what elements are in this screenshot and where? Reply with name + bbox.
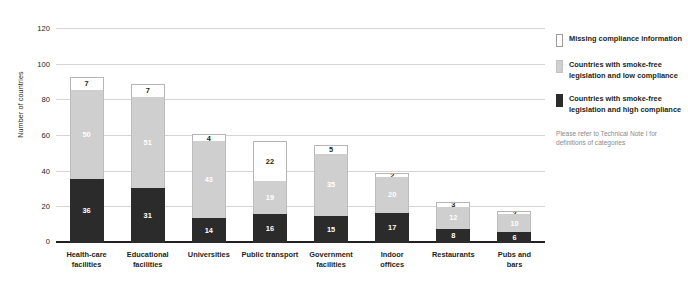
y-axis-tick-label: 120: [37, 24, 50, 33]
legend-item[interactable]: Countries with smoke-free legislation an…: [556, 60, 684, 81]
bar-segment-low-compliance: 43: [192, 141, 226, 218]
bar-stack[interactable]: 2106: [497, 211, 531, 243]
y-axis-tick-label: 60: [42, 131, 50, 140]
bar-segment-low-compliance: 10: [497, 214, 531, 232]
x-axis-label-line: offices: [353, 260, 431, 270]
chart-figure: Number of countries 02040608010012075036…: [0, 0, 688, 293]
bar-stack[interactable]: 53515: [314, 145, 348, 243]
gridline: 20: [56, 206, 545, 207]
bar-segment-low-compliance: 12: [436, 207, 470, 228]
bar-stack[interactable]: 221916: [253, 141, 287, 243]
bar-segment-high-compliance: 8: [436, 229, 470, 243]
bar-segment-high-compliance: 31: [131, 188, 165, 243]
bar-segment-high-compliance: 36: [70, 179, 104, 243]
bar-segment-low-compliance: 20: [375, 177, 409, 213]
bar-segment-missing: 7: [70, 77, 104, 89]
legend-item-label: Missing compliance information: [569, 34, 682, 45]
legend-swatch-icon: [556, 60, 563, 73]
bar-stack[interactable]: 75036: [70, 77, 104, 243]
y-axis-tick-label: 80: [42, 95, 50, 104]
bar-segment-low-compliance: 35: [314, 154, 348, 216]
legend-swatch-icon: [556, 34, 563, 47]
chart-legend: Missing compliance informationCountries …: [556, 34, 684, 148]
bar-segment-missing: 5: [314, 145, 348, 154]
axis-baseline: 0: [56, 241, 545, 243]
legend-items: Missing compliance informationCountries …: [556, 34, 684, 116]
bar-segment-low-compliance: 19: [253, 181, 287, 215]
legend-item-label: Countries with smoke-free legislation an…: [569, 94, 684, 115]
gridline: 80: [56, 99, 545, 100]
legend-item-label: Countries with smoke-free legislation an…: [569, 60, 684, 81]
bar-segment-missing: 22: [253, 141, 287, 180]
bar-stack[interactable]: 44314: [192, 134, 226, 243]
x-axis-label: Pubs andbars: [475, 250, 553, 270]
gridline: 100: [56, 64, 545, 65]
x-axis-label-line: Pubs and: [475, 250, 553, 260]
bar-stack[interactable]: 3128: [436, 202, 470, 243]
y-axis-tick-label: 0: [46, 237, 50, 246]
legend-swatch-icon: [556, 94, 563, 107]
legend-item[interactable]: Missing compliance information: [556, 34, 684, 47]
plot-area: 0204060801001207503675131443142219165351…: [56, 29, 545, 243]
gridline: 120: [56, 28, 545, 29]
x-axis-label-line: facilities: [109, 260, 187, 270]
y-axis-tick-label: 100: [37, 59, 50, 68]
x-axis-label-line: bars: [475, 260, 553, 270]
y-axis-tick-label: 20: [42, 202, 50, 211]
bar-segment-high-compliance: 16: [253, 214, 287, 243]
bar-segment-high-compliance: 17: [375, 213, 409, 243]
bar-segment-missing: 4: [192, 134, 226, 141]
bar-stack[interactable]: 75131: [131, 84, 165, 243]
legend-note: Please refer to Technical Note I for def…: [556, 129, 684, 148]
y-axis-title: Number of countries: [16, 25, 25, 185]
bar-stack[interactable]: 22017: [375, 173, 409, 243]
bar-segment-low-compliance: 51: [131, 97, 165, 188]
gridline: 40: [56, 171, 545, 172]
bar-segment-low-compliance: 50: [70, 90, 104, 179]
bar-segment-high-compliance: 14: [192, 218, 226, 243]
bar-segment-high-compliance: 6: [497, 232, 531, 243]
y-axis-tick-label: 40: [42, 166, 50, 175]
legend-item[interactable]: Countries with smoke-free legislation an…: [556, 94, 684, 115]
gridline: 60: [56, 135, 545, 136]
bar-segment-high-compliance: 15: [314, 216, 348, 243]
bar-segment-missing: 7: [131, 84, 165, 96]
